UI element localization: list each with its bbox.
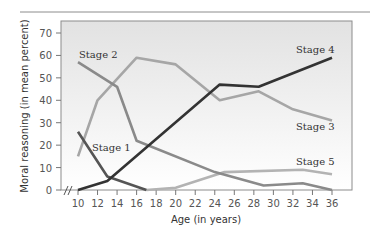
x-tick-label: 10 <box>72 198 85 209</box>
x-tick-label: 30 <box>267 198 280 209</box>
y-axis-title: Moral reasoning (in mean percent) <box>19 19 30 192</box>
x-tick-label: 26 <box>228 198 241 209</box>
x-tick-label: 16 <box>130 198 143 209</box>
x-tick-label: 36 <box>326 198 339 209</box>
x-tick-label: 28 <box>247 198 260 209</box>
x-axis-title: Age (in years) <box>171 214 241 225</box>
label-stage-2: Stage 2 <box>79 49 118 60</box>
x-tick-label: 24 <box>208 198 221 209</box>
y-tick-label: 60 <box>39 50 52 61</box>
label-stage-5: Stage 5 <box>296 156 335 167</box>
x-axis: 1012141618202224262830323436 <box>72 190 339 209</box>
y-tick-label: 10 <box>39 163 52 174</box>
x-tick-label: 20 <box>169 198 182 209</box>
y-tick-label: 40 <box>39 95 52 106</box>
label-stage-4: Stage 4 <box>296 44 335 55</box>
x-tick-label: 32 <box>287 198 300 209</box>
label-stage-3: Stage 3 <box>296 121 335 132</box>
y-tick-label: 20 <box>39 140 52 151</box>
y-tick-label: 0 <box>46 185 52 196</box>
y-tick-label: 70 <box>39 28 52 39</box>
y-tick-label: 30 <box>39 118 52 129</box>
y-axis: 010203040506070 <box>39 28 61 196</box>
label-stage-1: Stage 1 <box>92 142 131 153</box>
moral-reasoning-chart: 010203040506070 101214161820222426283032… <box>0 0 370 248</box>
y-tick-label: 50 <box>39 73 52 84</box>
x-tick-label: 34 <box>306 198 319 209</box>
x-tick-label: 14 <box>111 198 124 209</box>
x-tick-label: 18 <box>150 198 163 209</box>
x-tick-label: 12 <box>91 198 104 209</box>
x-tick-label: 22 <box>189 198 202 209</box>
